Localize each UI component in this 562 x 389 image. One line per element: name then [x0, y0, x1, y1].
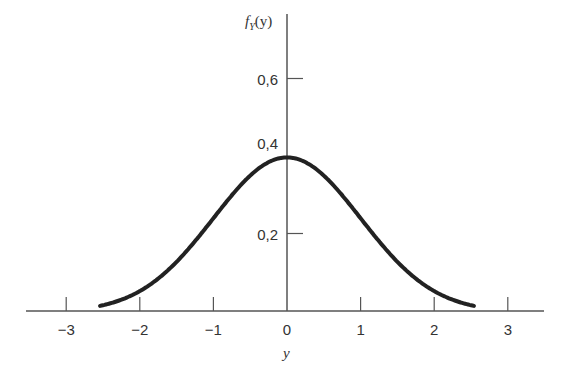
x-tick-label: 2 — [430, 321, 438, 338]
y-tick-label: 0,2 — [257, 226, 278, 243]
y-axis-label: fY(y) — [245, 13, 272, 32]
normal-density-chart: −3−2−10123 0,20,40,6 y fY(y) — [0, 0, 562, 389]
y-tick-label: 0,4 — [257, 135, 278, 152]
x-tick-label: 3 — [504, 321, 512, 338]
x-tick-label: −3 — [58, 321, 75, 338]
x-tick-label: −1 — [205, 321, 222, 338]
x-axis-label: y — [281, 345, 290, 361]
y-tick-label: 0,6 — [257, 71, 278, 88]
x-tick-label: −2 — [131, 321, 148, 338]
x-axis-ticks: −3−2−10123 — [58, 297, 512, 338]
x-tick-label: 0 — [283, 321, 291, 338]
x-tick-label: 1 — [356, 321, 364, 338]
axes — [26, 14, 544, 311]
